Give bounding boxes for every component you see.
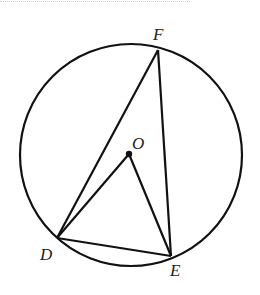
label-f: F [152,25,164,44]
segment-ef [158,50,171,256]
label-d: D [39,245,53,264]
label-o: O [132,134,144,153]
geometry-diagram: F O D E [0,0,260,295]
segment-de [57,238,171,256]
label-e: E [169,261,181,280]
segment-od [57,154,129,238]
